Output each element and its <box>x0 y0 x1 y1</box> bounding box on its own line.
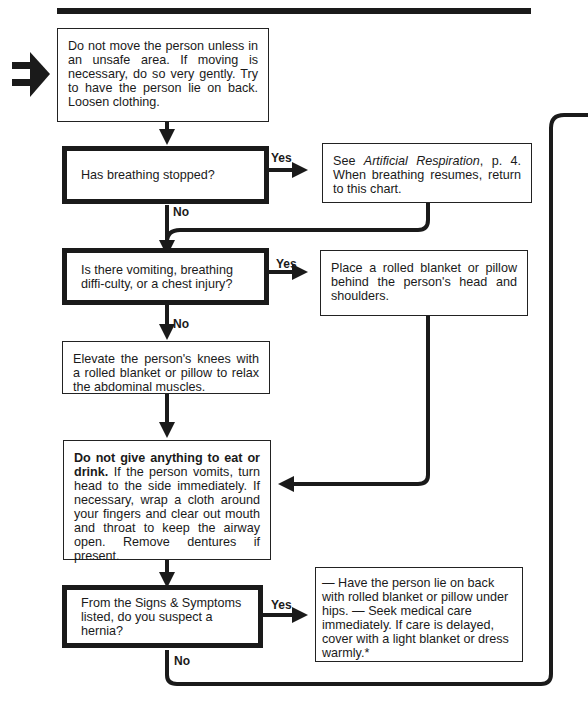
q1-no-label: No <box>173 205 189 219</box>
q3-yes-label: Yes <box>271 598 292 612</box>
q3-text: From the Signs & Symptoms listed, do you… <box>81 596 244 638</box>
q1-yes-label: Yes <box>271 151 292 165</box>
no-food-text: If the person vomits, turn head to the s… <box>74 465 260 563</box>
head-support-box: Place a rolled blanket or pillow behind … <box>320 250 528 316</box>
start-box: Do not move the person unless in an unsa… <box>57 28 269 122</box>
q2-no-label: No <box>173 317 189 331</box>
hernia-care-box: — Have the person lie on back with rolle… <box>315 567 523 662</box>
elevate-knees-box: Elevate the person's knees with a rolled… <box>62 341 270 394</box>
breathing-stopped-question: Has breathing stopped? <box>62 146 269 204</box>
artificial-respiration-box: See Artificial Respiration, p. 4. When b… <box>322 143 532 203</box>
q1-text: Has breathing stopped? <box>81 168 215 182</box>
q3-no-label: No <box>174 654 190 668</box>
q2-yes-label: Yes <box>276 257 297 271</box>
q1-yes-pre: See <box>333 154 364 168</box>
no-food-box: Do not give anything to eat or drink. If… <box>63 440 271 560</box>
q1-yes-link: Artificial Respiration <box>364 154 480 168</box>
entry-arrow-icon <box>12 52 50 97</box>
hernia-question: From the Signs & Symptoms listed, do you… <box>62 585 263 648</box>
q2-text: Is there vomiting, breathing diffi-culty… <box>81 263 250 291</box>
vomiting-question: Is there vomiting, breathing diffi-culty… <box>62 248 269 305</box>
